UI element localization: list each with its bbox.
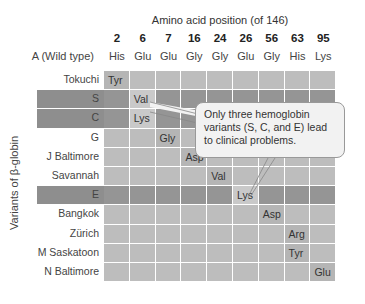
callout-note: Only three hemoglobin variants (S, C, an… xyxy=(195,102,345,158)
